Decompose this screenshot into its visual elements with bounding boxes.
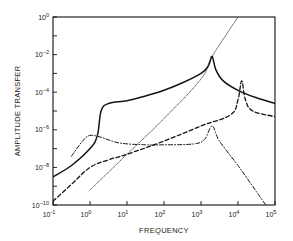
x-tick-label: 102: [155, 209, 166, 218]
series-dotted-line: [90, 17, 238, 190]
y-tick-label: 10−2: [35, 49, 49, 58]
y-tick-label: 100: [38, 12, 49, 21]
x-tick-label: 10-1: [43, 209, 56, 218]
x-tick-label: 101: [118, 209, 129, 218]
axis-ticks: [53, 17, 275, 205]
y-tick-label: 10−4: [35, 87, 49, 96]
series-solid-line: [53, 56, 275, 176]
series-dashed-line: [53, 81, 275, 201]
x-axis-title: FREQUENCY: [139, 226, 189, 235]
y-tick-label: 10−6: [35, 124, 49, 133]
x-tick-label: 104: [229, 209, 240, 218]
y-tick-label: 10−8: [35, 162, 49, 171]
amplitude-transfer-chart: AMPLITUDE TRANSFER FREQUENCY 10-11001011…: [0, 0, 293, 241]
y-tick-labels: 10010−210−410−610−810−10: [32, 12, 49, 209]
y-axis-title: AMPLITUDE TRANSFER: [13, 65, 22, 156]
series-dash-dot-line: [72, 126, 266, 205]
plot-frame: [53, 17, 275, 205]
x-tick-labels: 10-1100101102103104105: [43, 209, 277, 218]
x-tick-label: 100: [81, 209, 92, 218]
svg-text:AMPLITUDE TRANSFER: AMPLITUDE TRANSFER: [13, 65, 22, 156]
plot-series: [53, 17, 275, 205]
x-tick-label: 105: [266, 209, 277, 218]
x-tick-label: 103: [192, 209, 203, 218]
y-tick-label: 10−10: [32, 200, 49, 209]
